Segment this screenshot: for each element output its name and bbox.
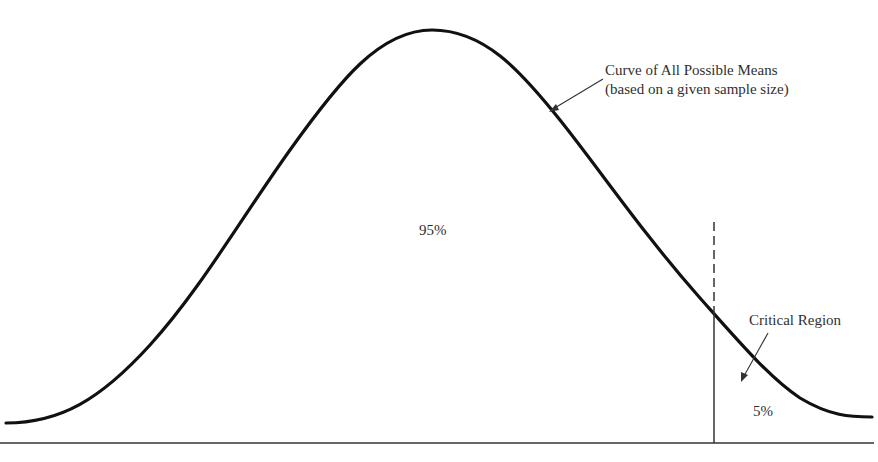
acceptance-region-percent: 95% <box>419 221 447 240</box>
curve-label-line1: Curve of All Possible Means <box>605 61 789 80</box>
critical-region-label: Critical Region <box>749 311 841 330</box>
curve-label: Curve of All Possible Means (based on a … <box>605 61 789 99</box>
curve-label-arrow <box>549 79 603 112</box>
critical-region-percent: 5% <box>753 402 773 421</box>
critical-region-arrow <box>741 333 768 382</box>
curve-label-line2: (based on a given sample size) <box>605 80 789 99</box>
